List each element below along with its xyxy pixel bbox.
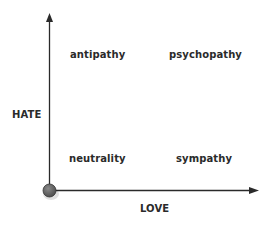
x-axis-label: LOVE	[140, 203, 169, 214]
quadrant-label-sympathy: sympathy	[176, 153, 232, 164]
quadrant-label-antipathy: antipathy	[70, 49, 125, 60]
x-axis-arrow-icon	[249, 187, 259, 194]
x-axis	[49, 187, 259, 194]
y-axis-label: HATE	[12, 109, 41, 120]
quadrant-label-psychopathy: psychopathy	[169, 49, 242, 60]
y-axis-arrow-icon	[46, 13, 53, 22]
quadrant-label-neutrality: neutrality	[69, 153, 126, 164]
origin-dot-icon	[43, 184, 56, 197]
y-axis	[46, 13, 53, 190]
